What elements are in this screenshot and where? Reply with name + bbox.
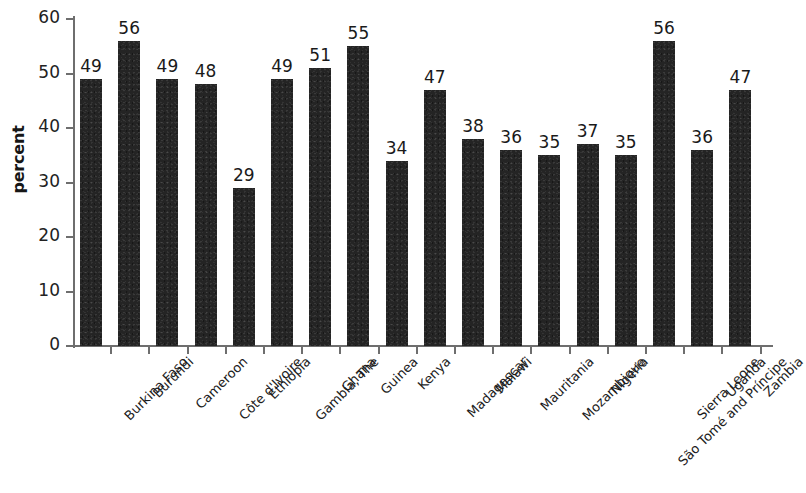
x-tick (645, 346, 647, 354)
x-tick (454, 346, 456, 354)
y-tick-label: 30 (38, 171, 60, 191)
y-tick-label: 10 (38, 280, 60, 300)
bar-value-label: 29 (233, 165, 255, 185)
bar: 47 (424, 90, 446, 346)
bar: 38 (462, 139, 484, 346)
bar: 35 (615, 155, 637, 346)
x-tick (492, 346, 494, 354)
y-tick: 40 (66, 127, 73, 129)
bar: 49 (80, 79, 102, 346)
x-tick (760, 346, 762, 354)
bar-value-label: 35 (539, 132, 561, 152)
y-axis-title: percent (9, 110, 28, 210)
x-axis-label: Kenya (414, 354, 453, 393)
bar: 47 (729, 90, 751, 346)
bar-value-label: 35 (615, 132, 637, 152)
bar-value-label: 36 (691, 127, 713, 147)
bar: 55 (347, 46, 369, 346)
plot-area: 0102030405060 49564948294951553447383635… (73, 19, 773, 346)
x-tick (607, 346, 609, 354)
bar-value-label: 49 (271, 56, 293, 76)
y-tick-label: 20 (38, 225, 60, 245)
y-tick-label: 40 (38, 116, 60, 136)
x-tick (110, 346, 112, 354)
x-tick (683, 346, 685, 354)
x-tick (721, 346, 723, 354)
x-axis-label-text: Cameroon (193, 354, 251, 412)
bar-value-label: 48 (195, 61, 217, 81)
bar-value-label: 56 (118, 18, 140, 38)
y-tick: 20 (66, 236, 73, 238)
bar: 36 (691, 150, 713, 346)
bar-value-label: 38 (462, 116, 484, 136)
y-tick: 30 (66, 182, 73, 184)
x-axis-label: Ghana (339, 354, 380, 395)
bar: 49 (156, 79, 178, 346)
y-tick: 50 (66, 73, 73, 75)
bar: 37 (577, 144, 599, 346)
x-axis-label: Guinea (378, 354, 421, 397)
y-tick: 10 (66, 291, 73, 293)
y-axis-line (73, 16, 75, 348)
y-tick-label: 50 (38, 62, 60, 82)
bar: 56 (653, 41, 675, 346)
bar-value-label: 37 (577, 121, 599, 141)
x-tick (263, 346, 265, 354)
x-tick (225, 346, 227, 354)
x-tick (530, 346, 532, 354)
y-tick: 60 (66, 18, 73, 20)
y-tick: 0 (66, 345, 73, 347)
x-axis-label: Nigeria (607, 354, 650, 397)
bar-value-label: 47 (730, 67, 752, 87)
bar: 51 (309, 68, 331, 346)
x-tick (569, 346, 571, 354)
bar: 56 (118, 41, 140, 346)
bar: 34 (386, 161, 408, 346)
x-tick (148, 346, 150, 354)
y-tick-label: 60 (38, 7, 60, 27)
x-axis-label: Cameroon (193, 354, 251, 412)
bar-value-label: 49 (80, 56, 102, 76)
x-tick (378, 346, 380, 354)
bar-value-label: 36 (500, 127, 522, 147)
bar: 49 (271, 79, 293, 346)
bar: 35 (538, 155, 560, 346)
x-axis-label-text: Ghana (339, 354, 380, 395)
x-axis-label-text: Kenya (414, 354, 453, 393)
bar-value-label: 47 (424, 67, 446, 87)
bar: 29 (233, 188, 255, 346)
bar: 36 (500, 150, 522, 346)
bar-value-label: 56 (653, 18, 675, 38)
x-tick (339, 346, 341, 354)
x-axis-label: São Tomé and Príncipe (675, 354, 790, 469)
bar-value-label: 34 (386, 138, 408, 158)
x-axis-label-text: Guinea (378, 354, 421, 397)
x-tick (416, 346, 418, 354)
x-axis-label-text: Nigeria (607, 354, 650, 397)
bar: 48 (195, 84, 217, 346)
x-tick (187, 346, 189, 354)
bar-value-label: 51 (309, 45, 331, 65)
bar-value-label: 55 (348, 23, 370, 43)
bar-value-label: 49 (157, 56, 179, 76)
y-tick-label: 0 (49, 334, 60, 354)
x-axis-label-text: São Tomé and Príncipe (675, 354, 790, 469)
